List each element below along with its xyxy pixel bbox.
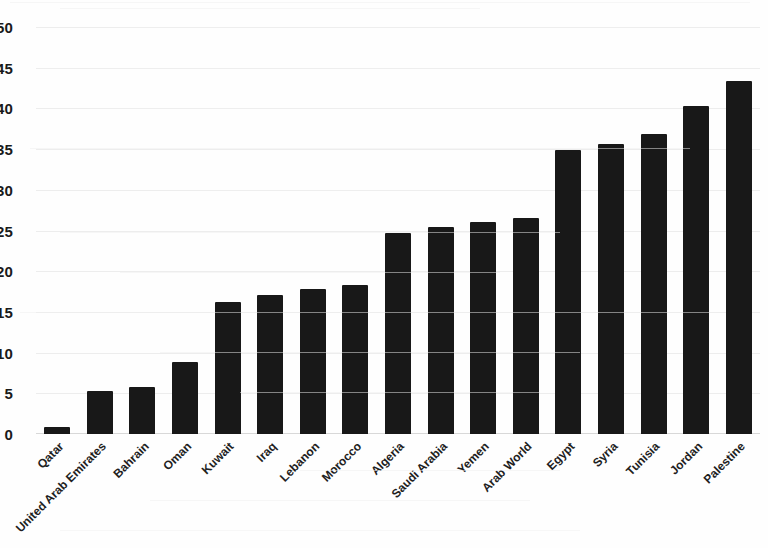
x-label-slot: Kuwait <box>206 437 249 548</box>
x-label-slot: Bahrain <box>121 437 164 548</box>
x-label-slot: Iraq <box>249 437 292 548</box>
x-axis-category-label: Syria <box>590 440 619 469</box>
bar[interactable] <box>428 227 454 434</box>
bar[interactable] <box>87 391 113 434</box>
bar-slot <box>504 27 547 434</box>
x-axis-category-label: Iraq <box>255 440 279 464</box>
scan-streak <box>10 2 750 3</box>
x-axis-category-label: Yemen <box>456 440 492 476</box>
bar[interactable] <box>555 150 581 434</box>
bar[interactable] <box>513 218 539 434</box>
bar[interactable] <box>172 362 198 434</box>
bar-slot <box>121 27 164 434</box>
x-label-slot: Egypt <box>547 437 590 548</box>
bar-slot <box>377 27 420 434</box>
bar[interactable] <box>598 144 624 434</box>
bar[interactable] <box>215 302 241 434</box>
bar-slot <box>334 27 377 434</box>
x-label-slot: Oman <box>164 437 207 548</box>
x-axis-category-label: Egypt <box>545 440 577 472</box>
x-axis-category-label: Qatar <box>35 440 66 471</box>
x-label-slot: Jordan <box>675 437 718 548</box>
bar-slot <box>632 27 675 434</box>
bar-slot <box>36 27 79 434</box>
bar[interactable] <box>129 387 155 434</box>
y-axis: 50454035302520151050 <box>0 0 36 548</box>
x-label-slot: Yemen <box>462 437 505 548</box>
y-tick-label: 0 <box>4 427 13 442</box>
x-label-slot: Palestine <box>717 437 760 548</box>
bar[interactable] <box>257 295 283 434</box>
x-axis-labels: QatarUnited Arab EmiratesBahrainOmanKuwa… <box>36 437 760 548</box>
bar-slot <box>675 27 718 434</box>
bar-chart: 50454035302520151050 QatarUnited Arab Em… <box>0 0 768 548</box>
y-tick-label: 50 <box>0 20 13 35</box>
x-axis-category-label: Oman <box>161 440 194 473</box>
bar-slot <box>79 27 122 434</box>
bar-slot <box>249 27 292 434</box>
bar-slot <box>164 27 207 434</box>
plot-area <box>36 27 760 434</box>
x-label-slot: Morocco <box>334 437 377 548</box>
y-tick-label: 15 <box>0 304 13 319</box>
bar-slot <box>547 27 590 434</box>
bar[interactable] <box>641 134 667 434</box>
y-tick-label: 5 <box>4 386 13 401</box>
bar[interactable] <box>300 289 326 434</box>
x-label-slot: Syria <box>590 437 633 548</box>
y-tick-label: 10 <box>0 345 13 360</box>
bar-slot <box>717 27 760 434</box>
y-tick-label: 45 <box>0 60 13 75</box>
bar[interactable] <box>726 81 752 434</box>
y-tick-label: 20 <box>0 264 13 279</box>
y-tick-label: 25 <box>0 223 13 238</box>
x-label-slot: Saudi Arabia <box>419 437 462 548</box>
x-label-slot: Tunisia <box>632 437 675 548</box>
bar-slot <box>206 27 249 434</box>
bar-slot <box>292 27 335 434</box>
bar[interactable] <box>342 285 368 434</box>
bars-layer <box>36 27 760 434</box>
bar[interactable] <box>470 222 496 434</box>
x-label-slot: United Arab Emirates <box>79 437 122 548</box>
bar-slot <box>462 27 505 434</box>
scan-streak <box>60 8 480 9</box>
bar-slot <box>419 27 462 434</box>
x-label-slot: Lebanon <box>292 437 335 548</box>
x-label-slot: Arab World <box>504 437 547 548</box>
bar-slot <box>590 27 633 434</box>
y-tick-label: 40 <box>0 101 13 116</box>
bar[interactable] <box>385 233 411 434</box>
bar[interactable] <box>44 427 70 434</box>
bar[interactable] <box>683 106 709 434</box>
y-tick-label: 30 <box>0 182 13 197</box>
y-tick-label: 35 <box>0 142 13 157</box>
